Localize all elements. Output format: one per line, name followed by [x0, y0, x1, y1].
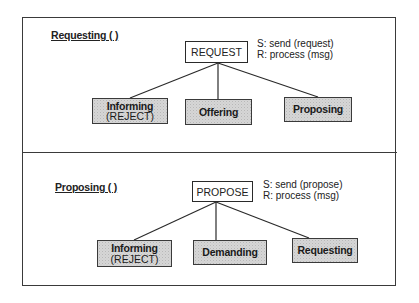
- root-node-request: REQUEST: [185, 41, 248, 63]
- panel-heading-requesting: Requesting ( ): [51, 29, 118, 41]
- panel-divider: [22, 152, 397, 153]
- note-process-line: R: process (msg): [263, 191, 343, 202]
- root-node-propose: PROPOSE: [192, 181, 253, 202]
- child-node-label: Informing: [111, 243, 158, 254]
- panel-heading-proposing: Proposing ( ): [55, 181, 117, 193]
- child-node-label: Proposing: [293, 104, 343, 115]
- child-node-demanding: Demanding: [193, 240, 267, 265]
- child-node-sublabel: (REJECT): [111, 254, 159, 265]
- child-node-label: Demanding: [202, 247, 257, 258]
- child-node-sublabel: (REJECT): [106, 111, 154, 122]
- send-process-note-request: S: send (request) R: process (msg): [257, 39, 334, 60]
- child-node-label: Offering: [199, 107, 238, 118]
- child-node-label: Requesting: [297, 245, 352, 256]
- child-node-informing: Informing (REJECT): [92, 98, 168, 124]
- root-node-label: PROPOSE: [197, 186, 249, 198]
- child-node-offering: Offering: [185, 99, 252, 125]
- child-node-informing: Informing (REJECT): [97, 240, 172, 267]
- note-send-line: S: send (request): [257, 39, 334, 50]
- note-send-line: S: send (propose): [263, 180, 343, 191]
- child-node-proposing: Proposing: [284, 97, 352, 122]
- send-process-note-propose: S: send (propose) R: process (msg): [263, 180, 343, 201]
- child-node-requesting: Requesting: [292, 238, 358, 263]
- root-node-label: REQUEST: [191, 46, 242, 58]
- note-process-line: R: process (msg): [257, 50, 334, 61]
